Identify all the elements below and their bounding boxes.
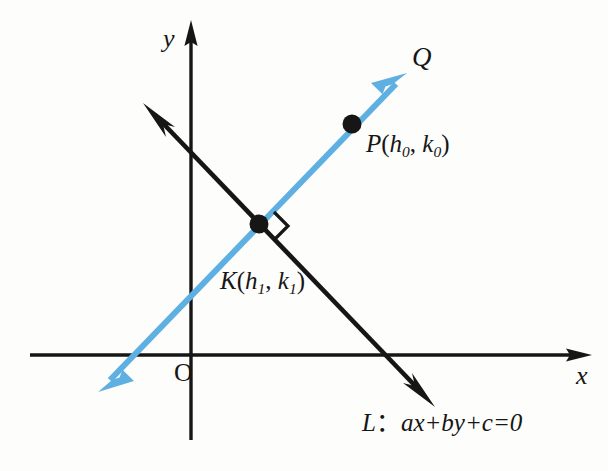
figure-canvas: y x O Q P(h0, k0) K(h1, k1) L：ax+by+c=0 — [0, 0, 608, 471]
x-axis-label: x — [576, 363, 588, 389]
point-k-dot — [250, 215, 269, 234]
origin-label: O — [174, 360, 193, 386]
geometry-diagram-svg — [0, 0, 608, 471]
point-p-label-x-sub: 0 — [402, 143, 410, 160]
y-axis-label: y — [163, 26, 175, 52]
point-k-label-x: h — [245, 267, 258, 294]
point-k-label-letter: K — [220, 267, 237, 294]
line-l-label-equation: ax+by+c=0 — [401, 409, 522, 436]
point-p-label: P(h0, k0) — [366, 131, 450, 156]
point-p-label-letter: P — [366, 130, 381, 157]
point-p-dot — [343, 115, 362, 134]
point-p-label-y: k — [422, 130, 433, 157]
point-k-label-y-sub: 1 — [289, 280, 297, 297]
line-l-label: L：ax+by+c=0 — [362, 410, 522, 435]
point-p-label-x: h — [390, 130, 403, 157]
line-l-label-name: L — [362, 409, 376, 436]
line-l-label-colon: ： — [376, 409, 401, 436]
point-k-label: K(h1, k1) — [220, 268, 305, 293]
right-angle-marker — [274, 212, 288, 240]
line-q-label: Q — [412, 44, 432, 71]
point-k-label-y: k — [278, 267, 289, 294]
